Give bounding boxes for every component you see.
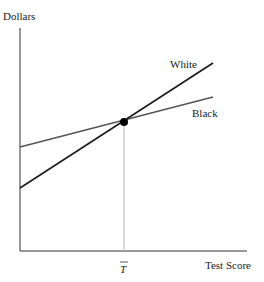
white-line: [20, 63, 213, 188]
chart-canvas: [0, 0, 264, 282]
y-axis-label: Dollars: [3, 10, 35, 22]
black-line: [20, 97, 213, 147]
white-series-label: White: [170, 58, 197, 70]
x-axis-label: Test Score: [205, 259, 251, 271]
black-series-label: Black: [192, 107, 218, 119]
t-bar-label: T: [120, 263, 126, 275]
intersection-point: [120, 118, 128, 126]
